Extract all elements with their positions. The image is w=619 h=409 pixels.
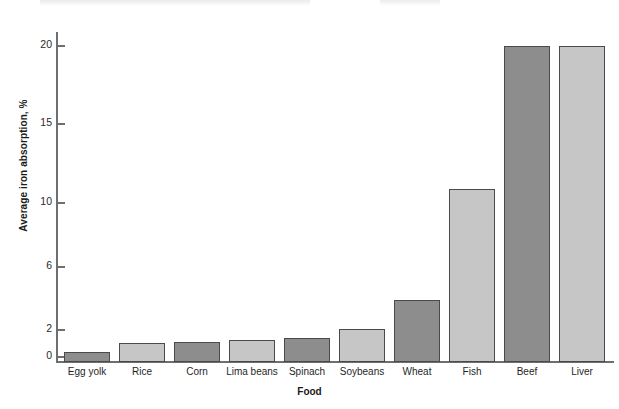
bar [64, 352, 110, 362]
scan-artifact-top-left [40, 0, 310, 6]
y-axis-title: Average iron absorption, % [18, 51, 29, 281]
y-axis-tick-label: 20 [24, 38, 52, 50]
bar [174, 342, 220, 362]
bar [284, 338, 330, 362]
y-axis-tick-label: 10 [24, 195, 52, 207]
y-axis-tick-label: 0 [24, 349, 52, 361]
y-axis-tick-label: 2 [24, 322, 52, 334]
x-axis-tick-label: Liver [545, 366, 619, 377]
x-axis-title: Food [0, 386, 619, 397]
bar [559, 46, 605, 362]
bar [119, 343, 165, 362]
bar [504, 46, 550, 362]
scan-artifact-top-right [380, 0, 440, 6]
y-axis-tick-label: 6 [24, 259, 52, 271]
bar [449, 189, 495, 362]
y-axis-tick-label: 15 [24, 116, 52, 128]
bar [339, 329, 385, 362]
bar [394, 300, 440, 362]
plot-area [58, 32, 614, 362]
bar [229, 340, 275, 362]
bar-chart-figure: Average iron absorption, % 201510620 Egg… [0, 0, 619, 409]
